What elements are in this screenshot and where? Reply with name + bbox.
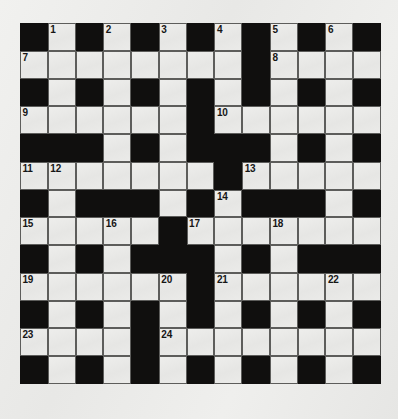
grid-cell[interactable]: 20 — [159, 273, 187, 301]
grid-cell[interactable] — [325, 301, 353, 329]
grid-cell[interactable] — [48, 106, 76, 134]
grid-cell[interactable] — [103, 79, 131, 107]
grid-cell[interactable] — [214, 51, 242, 79]
grid-cell[interactable] — [353, 106, 381, 134]
grid-cell[interactable] — [242, 217, 270, 245]
grid-cell[interactable]: 14 — [214, 190, 242, 218]
grid-cell[interactable] — [159, 134, 187, 162]
grid-cell[interactable] — [270, 328, 298, 356]
grid-cell[interactable]: 21 — [214, 273, 242, 301]
grid-cell[interactable] — [48, 79, 76, 107]
grid-cell[interactable]: 10 — [214, 106, 242, 134]
grid-cell[interactable]: 18 — [270, 217, 298, 245]
grid-cell[interactable] — [325, 217, 353, 245]
grid-cell[interactable] — [48, 245, 76, 273]
grid-cell[interactable] — [214, 356, 242, 384]
grid-cell[interactable] — [131, 217, 159, 245]
grid-cell[interactable] — [325, 79, 353, 107]
grid-cell[interactable] — [298, 51, 326, 79]
grid-cell[interactable] — [270, 106, 298, 134]
grid-cell[interactable] — [270, 79, 298, 107]
grid-cell[interactable] — [270, 162, 298, 190]
grid-cell[interactable]: 16 — [103, 217, 131, 245]
crossword-grid[interactable]: 123456789101112131415161718192021222324 — [20, 23, 381, 384]
grid-cell[interactable] — [270, 134, 298, 162]
grid-cell[interactable] — [298, 217, 326, 245]
grid-cell[interactable] — [48, 217, 76, 245]
grid-cell[interactable] — [159, 190, 187, 218]
grid-cell[interactable]: 15 — [20, 217, 48, 245]
grid-cell[interactable]: 11 — [20, 162, 48, 190]
grid-cell[interactable] — [48, 356, 76, 384]
grid-cell[interactable] — [103, 51, 131, 79]
grid-cell[interactable] — [103, 273, 131, 301]
grid-cell[interactable] — [131, 51, 159, 79]
grid-cell[interactable] — [48, 273, 76, 301]
grid-cell[interactable] — [242, 273, 270, 301]
grid-cell[interactable] — [214, 79, 242, 107]
grid-cell[interactable] — [353, 162, 381, 190]
grid-cell[interactable]: 3 — [159, 23, 187, 51]
grid-cell[interactable] — [353, 328, 381, 356]
grid-cell[interactable]: 9 — [20, 106, 48, 134]
grid-cell[interactable]: 6 — [325, 23, 353, 51]
grid-cell[interactable] — [270, 273, 298, 301]
grid-cell[interactable] — [242, 106, 270, 134]
grid-cell[interactable] — [270, 356, 298, 384]
grid-cell[interactable] — [48, 301, 76, 329]
grid-cell[interactable] — [298, 162, 326, 190]
grid-cell[interactable]: 12 — [48, 162, 76, 190]
grid-cell[interactable] — [159, 162, 187, 190]
grid-cell[interactable] — [270, 301, 298, 329]
grid-cell[interactable] — [131, 106, 159, 134]
grid-cell[interactable] — [187, 162, 215, 190]
grid-cell[interactable] — [76, 162, 104, 190]
grid-cell[interactable] — [270, 245, 298, 273]
grid-cell[interactable]: 13 — [242, 162, 270, 190]
grid-cell[interactable] — [103, 301, 131, 329]
grid-cell[interactable] — [325, 162, 353, 190]
grid-cell[interactable] — [76, 273, 104, 301]
grid-cell[interactable]: 8 — [270, 51, 298, 79]
grid-cell[interactable] — [131, 162, 159, 190]
grid-cell[interactable] — [131, 273, 159, 301]
grid-cell[interactable] — [103, 162, 131, 190]
grid-cell[interactable] — [103, 245, 131, 273]
grid-cell[interactable] — [325, 106, 353, 134]
grid-cell[interactable] — [214, 217, 242, 245]
grid-cell[interactable] — [159, 106, 187, 134]
grid-cell[interactable] — [298, 328, 326, 356]
grid-cell[interactable] — [159, 51, 187, 79]
grid-cell[interactable] — [159, 356, 187, 384]
grid-cell[interactable] — [76, 51, 104, 79]
grid-cell[interactable]: 5 — [270, 23, 298, 51]
grid-cell[interactable] — [325, 190, 353, 218]
grid-cell[interactable] — [159, 301, 187, 329]
grid-cell[interactable]: 2 — [103, 23, 131, 51]
grid-cell[interactable] — [103, 328, 131, 356]
grid-cell[interactable]: 7 — [20, 51, 48, 79]
grid-cell[interactable] — [298, 273, 326, 301]
grid-cell[interactable]: 17 — [187, 217, 215, 245]
grid-cell[interactable] — [187, 328, 215, 356]
grid-cell[interactable] — [48, 328, 76, 356]
grid-cell[interactable] — [242, 328, 270, 356]
grid-cell[interactable] — [325, 328, 353, 356]
grid-cell[interactable] — [214, 301, 242, 329]
grid-cell[interactable]: 4 — [214, 23, 242, 51]
grid-cell[interactable] — [353, 51, 381, 79]
grid-cell[interactable] — [48, 51, 76, 79]
grid-cell[interactable] — [48, 190, 76, 218]
grid-cell[interactable] — [76, 217, 104, 245]
grid-cell[interactable] — [214, 245, 242, 273]
grid-cell[interactable]: 24 — [159, 328, 187, 356]
grid-cell[interactable] — [325, 134, 353, 162]
grid-cell[interactable]: 22 — [325, 273, 353, 301]
grid-cell[interactable] — [325, 51, 353, 79]
grid-cell[interactable] — [353, 217, 381, 245]
grid-cell[interactable] — [103, 106, 131, 134]
grid-cell[interactable] — [325, 356, 353, 384]
grid-cell[interactable]: 23 — [20, 328, 48, 356]
grid-cell[interactable] — [353, 273, 381, 301]
grid-cell[interactable] — [187, 51, 215, 79]
